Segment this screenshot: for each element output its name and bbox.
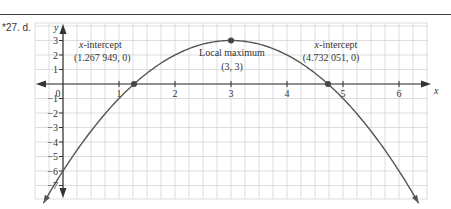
left-intercept-title: x-intercept [78, 39, 122, 50]
x-tick-label: 3 [229, 88, 234, 99]
right-intercept-title: x-intercept [314, 39, 358, 50]
parabola-chart: 0123456321−1−2−3−4−5−6−7xy x-intercept (… [0, 0, 451, 209]
y-tick-label: −4 [47, 137, 58, 148]
maximum-coords: (3, 3) [221, 61, 243, 73]
y-tick-label: −5 [47, 151, 58, 162]
maximum-title: Local maximum [199, 47, 265, 58]
y-axis-down-arrow-icon [60, 188, 67, 198]
x-tick-label: 6 [397, 88, 402, 99]
y-tick-label: −6 [47, 166, 58, 177]
y-tick-label: −3 [47, 122, 58, 133]
left-intercept-coords: (1.267 949, 0) [74, 52, 131, 64]
y-axis-label: y [53, 22, 59, 33]
right-intercept-coords: (4.732 051, 0) [303, 52, 360, 64]
y-tick-label: −1 [47, 93, 58, 104]
y-tick-label: 2 [53, 50, 58, 61]
key-point-marker [131, 81, 137, 87]
x-axis-right-arrow-icon [421, 81, 431, 88]
y-tick-label: 1 [53, 64, 58, 75]
key-point-marker [228, 38, 234, 44]
key-point-marker [325, 81, 331, 87]
x-axis-left-arrow-icon [36, 81, 46, 88]
x-tick-label: 4 [285, 88, 290, 99]
y-axis-up-arrow-icon [60, 24, 67, 34]
x-axis-label: x [433, 85, 439, 96]
x-tick-label: 2 [173, 88, 178, 99]
y-tick-label: −2 [47, 108, 58, 119]
y-tick-label: 3 [53, 35, 58, 46]
